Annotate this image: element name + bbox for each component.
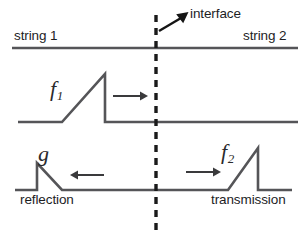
- transmitted-pulse-symbol: f2: [221, 141, 234, 165]
- incident-direction-arrow: [113, 92, 148, 101]
- interface-label: interface: [190, 7, 241, 21]
- transmitted-pulse-symbol-subscript: 2: [228, 151, 235, 166]
- string-2-label: string 2: [243, 29, 286, 43]
- incident-pulse-symbol-subscript: 1: [57, 88, 64, 103]
- reflected-transmitted-pulse-path: [15, 148, 292, 190]
- interface-pointer-arrow: [159, 12, 189, 31]
- reflected-direction-arrow: [70, 171, 104, 180]
- reflection-label: reflection: [20, 193, 74, 207]
- transmitted-direction-arrow: [186, 168, 221, 177]
- transmitted-pulse-symbol-base: f: [221, 139, 227, 164]
- transmission-label: transmission: [211, 193, 286, 207]
- incident-pulse-symbol-base: f: [50, 76, 56, 101]
- incident-pulse-symbol: f1: [50, 78, 63, 102]
- string-1-label: string 1: [14, 29, 57, 43]
- wave-interface-diagram: string 1 string 2 interface f1 g f2 refl…: [0, 0, 308, 241]
- reflected-pulse-symbol: g: [38, 143, 49, 165]
